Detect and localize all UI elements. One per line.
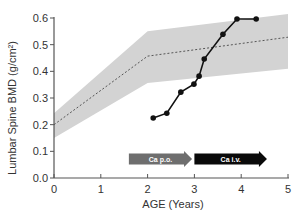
data-point: [234, 16, 240, 22]
data-point: [191, 81, 197, 87]
x-tick-label: 1: [98, 183, 104, 195]
data-point: [164, 110, 170, 116]
x-tick-label: 3: [191, 183, 197, 195]
y-axis-title: Lumbar Spine BMD (g/cm²): [6, 41, 18, 175]
y-tick-label: 0.1: [33, 145, 48, 157]
x-tick-label: 5: [285, 183, 291, 195]
y-tick-label: 0.2: [33, 119, 48, 131]
x-tick-label: 2: [145, 183, 151, 195]
data-point: [150, 115, 156, 121]
data-point: [201, 56, 207, 62]
data-point: [178, 89, 184, 95]
y-tick-label: 0.5: [33, 39, 48, 51]
x-tick-label: 4: [238, 183, 244, 195]
reference-band: [54, 14, 288, 138]
data-point: [220, 31, 226, 37]
y-tick-label: 0.3: [33, 92, 48, 104]
y-tick-label: 0.6: [33, 12, 48, 24]
x-axis-title: AGE (Years): [142, 198, 203, 210]
treatment-arrow-label: Ca i.v.: [221, 156, 241, 163]
y-ticks: 0.00.10.20.30.40.50.6: [33, 12, 54, 184]
x-tick-label: 0: [51, 183, 57, 195]
data-point: [253, 16, 259, 22]
data-point: [196, 73, 202, 79]
bmd-chart: 012345 0.00.10.20.30.40.50.6 Ca p.o.Ca i…: [0, 0, 297, 217]
reference-band-layer: [54, 14, 288, 138]
y-tick-label: 0.0: [33, 172, 48, 184]
y-tick-label: 0.4: [33, 65, 48, 77]
treatment-arrow-label: Ca p.o.: [149, 156, 172, 164]
treatment-arrows: Ca p.o.Ca i.v.: [129, 151, 267, 167]
x-ticks: 012345: [51, 174, 291, 195]
